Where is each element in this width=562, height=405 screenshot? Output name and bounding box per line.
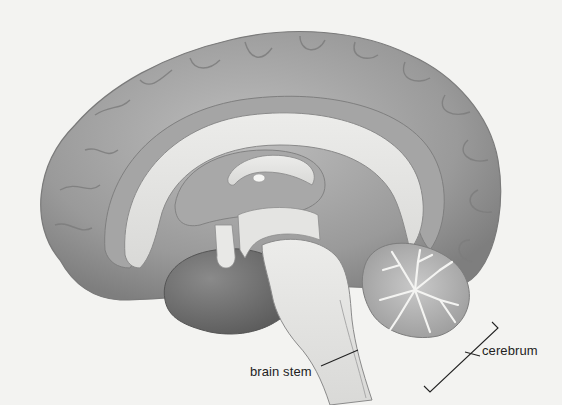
cerebrum-label: cerebrum [482,343,538,358]
pineal-highlight [253,174,265,182]
hypothalamus [215,225,235,268]
brain-stem-label: brain stem [250,364,312,379]
brain-illustration [0,0,562,405]
